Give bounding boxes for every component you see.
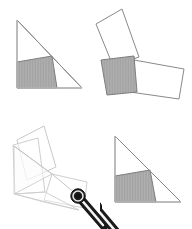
- panel-bottom-right[interactable]: Resulting right triangle with shaded qua…: [100, 112, 192, 229]
- handle-ring-hole: [76, 194, 81, 199]
- panel-top-left[interactable]: Right triangle with shaded quadrilateral…: [0, 0, 96, 112]
- square-lower-right[interactable]: [130, 60, 184, 99]
- figure-grid: Right triangle with shaded quadrilateral…: [0, 0, 192, 229]
- panel-top-right[interactable]: Two tilted squares on the legs with shad…: [93, 0, 192, 112]
- shaded-quadrilateral[interactable]: [115, 170, 156, 202]
- panel-bottom-left[interactable]: Mid-animation overlapping translucent ou…: [0, 112, 104, 229]
- shaded-quadrilateral[interactable]: [17, 56, 57, 88]
- shaded-quadrilateral[interactable]: [101, 56, 137, 95]
